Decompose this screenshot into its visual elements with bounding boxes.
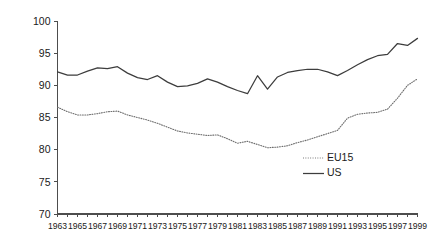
x-tick-label: 1993 <box>348 221 367 231</box>
x-tick-label: 1979 <box>208 221 227 231</box>
y-axis: 707580859095100 <box>33 15 58 220</box>
y-tick-label-group: 707580859095100 <box>33 15 51 220</box>
line-chart: 707580859095100 196319651967196919711973… <box>0 0 431 249</box>
y-tick-label: 75 <box>39 176 51 188</box>
chart-legend: EU15US <box>303 151 353 179</box>
x-tick-label: 1963 <box>48 221 67 231</box>
y-tick-label: 100 <box>33 15 51 27</box>
series-group <box>58 38 418 147</box>
x-tick-label: 1965 <box>68 221 87 231</box>
x-tick-label: 1983 <box>248 221 267 231</box>
x-tick-label: 1999 <box>408 221 427 231</box>
x-tick-label: 1973 <box>148 221 167 231</box>
x-tick-label: 1967 <box>88 221 107 231</box>
legend-label-eu15: EU15 <box>327 151 353 163</box>
y-tick-label: 90 <box>39 79 51 91</box>
x-tick-label: 1997 <box>388 221 407 231</box>
x-tick-label-group: 1963196519671969197119731975197719791981… <box>48 221 427 231</box>
legend-label-us: US <box>327 166 342 178</box>
x-tick-label: 1969 <box>108 221 127 231</box>
x-axis: 1963196519671969197119731975197719791981… <box>48 214 427 231</box>
x-tick-label: 1977 <box>188 221 207 231</box>
x-tick-label: 1975 <box>168 221 187 231</box>
y-tick-label: 95 <box>39 47 51 59</box>
x-tick-label: 1981 <box>228 221 247 231</box>
y-tick-label: 80 <box>39 143 51 155</box>
series-line-us <box>58 38 418 93</box>
x-tick-label: 1995 <box>368 221 387 231</box>
x-tick-label: 1991 <box>328 221 347 231</box>
y-tick-label: 70 <box>39 208 51 220</box>
chart-canvas: 707580859095100 196319651967196919711973… <box>0 0 431 249</box>
x-tick-label: 1989 <box>308 221 327 231</box>
x-tick-label: 1971 <box>128 221 147 231</box>
y-tick-label: 85 <box>39 111 51 123</box>
x-tick-label: 1985 <box>268 221 287 231</box>
series-line-eu15 <box>58 79 418 148</box>
x-tick-label: 1987 <box>288 221 307 231</box>
